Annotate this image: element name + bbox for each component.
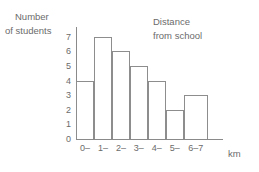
y-axis-tick-label: 5 xyxy=(66,61,71,70)
histogram-bar xyxy=(148,81,166,139)
y-axis-tick-label: 0 xyxy=(66,135,71,144)
y-axis-tick-label: 4 xyxy=(66,76,71,85)
x-axis-tick-label: 6–7 xyxy=(188,143,203,153)
histogram-bar xyxy=(166,110,184,139)
histogram-bar xyxy=(112,51,130,139)
y-axis-tick-label: 1 xyxy=(66,120,71,129)
x-axis-unit-label: km xyxy=(228,148,241,159)
y-axis-tick-label: 6 xyxy=(66,47,71,56)
x-axis-tick-label: 3– xyxy=(134,143,144,153)
y-axis-title-line-1: Number xyxy=(15,11,49,23)
plot-area: 01234567 xyxy=(76,28,208,139)
histogram-bar xyxy=(184,95,208,139)
histogram-bar xyxy=(94,37,112,139)
y-axis-title-line-2: of students xyxy=(5,25,51,37)
histogram-bar xyxy=(130,66,148,139)
x-axis-tick-label: 5– xyxy=(170,143,180,153)
x-axis-tick-label: 2– xyxy=(116,143,126,153)
y-axis-tick-label: 3 xyxy=(66,91,71,100)
x-axis-line xyxy=(76,139,223,140)
y-axis-tick-label: 7 xyxy=(66,32,71,41)
x-axis-tick-label: 0– xyxy=(80,143,90,153)
x-axis-tick-label: 4– xyxy=(152,143,162,153)
histogram-bar xyxy=(76,81,94,139)
x-axis-tick-label: 1– xyxy=(98,143,108,153)
histogram-figure: Number of students Distance from school … xyxy=(0,0,259,172)
y-axis-tick-label: 2 xyxy=(66,105,71,114)
chart-annotation-line-1: Distance xyxy=(153,16,190,28)
